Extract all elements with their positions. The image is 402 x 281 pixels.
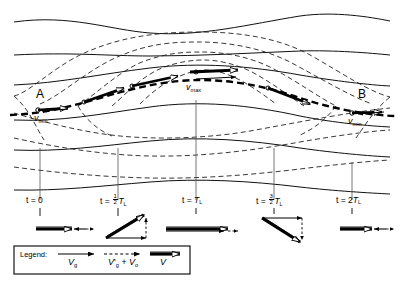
time-label-t-two-prefix: t = 2 <box>336 195 353 205</box>
time-label-t-two-sub: L <box>358 199 361 205</box>
label-point-a: A <box>36 88 44 100</box>
time-gridline-group <box>40 100 352 200</box>
time-label-t-half: t = 12TL <box>100 194 127 207</box>
time-label-t-two: t = 2TL <box>336 196 361 206</box>
streamline-3 <box>14 65 390 86</box>
panel-t-half <box>106 214 146 238</box>
contour-lower-3 <box>14 160 390 178</box>
label-v-min-left: vmin <box>34 114 48 124</box>
time-label-t-half-prefix: t = <box>100 196 112 206</box>
vector-at-vmax <box>190 70 238 79</box>
contour-inner-left <box>78 106 112 136</box>
vector-crest-left <box>130 76 178 88</box>
time-label-t-one-sub: L <box>199 199 202 205</box>
time-label-t-threehalf-sub: L <box>280 201 283 207</box>
legend-label-vg-plus-vo: V'g + Vo <box>108 258 138 268</box>
contour-outer-top <box>14 32 390 97</box>
time-label-t0: t = 0 <box>26 196 43 205</box>
contour-5 <box>140 70 276 104</box>
streamline-2 <box>14 51 390 56</box>
panel-t-threehalf <box>262 217 302 242</box>
label-v-max: vmax <box>186 83 201 93</box>
legend-label-v: V <box>160 258 166 267</box>
time-label-t-one-prefix: t = <box>182 195 194 205</box>
tick-stub-group <box>40 208 352 216</box>
legend-label-vg-sub: g <box>74 262 77 268</box>
v-min-left-sub: min <box>39 118 48 124</box>
legend-label-v-letter: V <box>160 257 166 267</box>
panel-t-two <box>340 227 394 229</box>
time-label-t-one: t = TL <box>182 196 202 206</box>
legend-label-vgp-extra-sub: o <box>135 262 138 268</box>
panel-t-one <box>166 227 238 231</box>
streamline-group <box>14 14 390 194</box>
label-v-min-right: vmin <box>348 117 362 127</box>
vector-panel-group <box>36 214 394 242</box>
vector-ascend-left <box>82 88 124 104</box>
wave-orbital-velocity-figure <box>0 0 402 281</box>
time-label-t0-prefix: t = 0 <box>26 195 43 205</box>
time-label-t-threehalf: t = 32TL <box>256 194 283 207</box>
v-min-right-sub: min <box>353 121 362 127</box>
time-label-t-threehalf-prefix: t = <box>256 196 268 206</box>
contour-lower-1 <box>14 108 390 138</box>
legend-symbol-v <box>150 252 180 254</box>
legend-title: Legend: <box>20 251 47 259</box>
label-point-b: B <box>358 88 366 100</box>
legend-label-vg: Vg <box>68 258 77 268</box>
vector-at-a <box>36 108 68 112</box>
v-max-sub: max <box>191 87 202 93</box>
streamline-6 <box>14 180 390 194</box>
panel-t0 <box>36 227 94 229</box>
time-label-t-half-sub: L <box>124 201 127 207</box>
legend-label-vgp-extra: + V <box>119 257 135 267</box>
streamline-1 <box>14 14 390 34</box>
particle-trajectory <box>10 80 396 116</box>
